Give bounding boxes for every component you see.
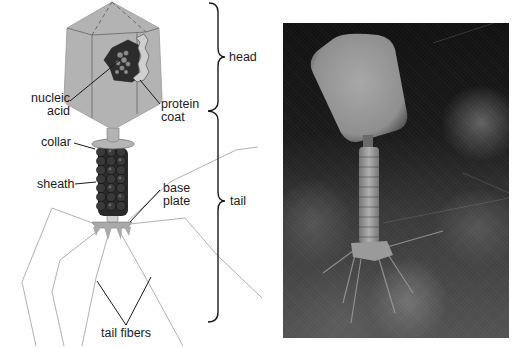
micrograph-base-plate (351, 241, 393, 261)
label-acid: acid (18, 105, 70, 118)
micrograph-tail (359, 147, 379, 243)
label-tail: tail (230, 195, 246, 208)
label-protein-coat: protein coat (161, 98, 199, 124)
electron-micrograph (283, 23, 509, 338)
label-sheath: sheath (37, 178, 75, 191)
sheath (96, 147, 128, 216)
neck (107, 128, 119, 142)
label-nucleic-acid: nucleic acid (18, 92, 70, 118)
micrograph-head (311, 34, 408, 142)
label-head: head (229, 51, 257, 64)
label-tail-fibers: tail fibers (101, 327, 151, 340)
label-coat: coat (161, 111, 199, 124)
label-base-plate: base plate (163, 182, 190, 208)
base-plate (92, 214, 132, 240)
label-collar: collar (41, 136, 71, 149)
label-plate: plate (163, 195, 190, 208)
head (64, 2, 162, 128)
micrograph-phage (283, 23, 509, 338)
